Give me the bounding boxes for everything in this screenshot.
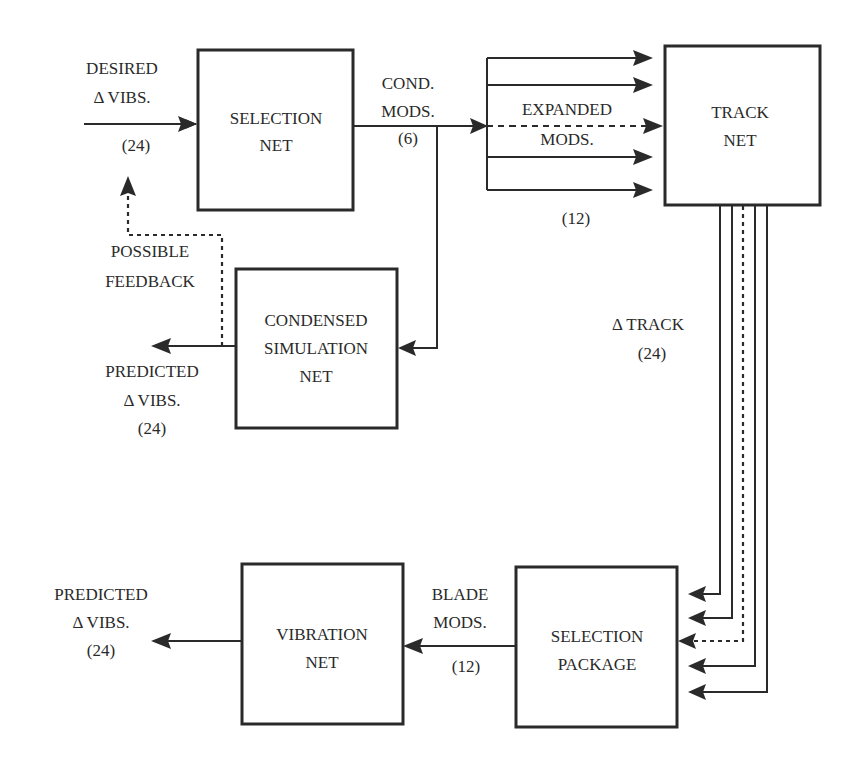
blade-mods-count: (12)	[452, 657, 480, 676]
vibration-net-label-2: NET	[305, 653, 339, 672]
condensed-label-1: CONDENSED	[265, 311, 368, 330]
predicted-top-label-1: PREDICTED	[105, 362, 199, 381]
expanded-mods-fan: EXPANDED MODS. (12)	[487, 50, 663, 228]
selection-package-label-2: PACKAGE	[558, 655, 637, 674]
predicted-vibs-bottom-output: PREDICTED Δ VIBS. (24)	[54, 585, 242, 660]
delta-track-label: Δ TRACK	[612, 315, 685, 334]
predicted-bottom-count: (24)	[87, 641, 115, 660]
desired-label-2: Δ VIBS.	[93, 88, 150, 107]
cond-mods-count: (6)	[398, 129, 418, 148]
feedback-label-2: FEEDBACK	[105, 272, 195, 291]
cond-mods-label-1: COND.	[382, 74, 434, 93]
delta-track-count: (24)	[638, 344, 666, 363]
desired-label-1: DESIRED	[86, 59, 158, 78]
condensed-label-2: SIMULATION	[264, 339, 368, 358]
cond-mods-label-2: MODS.	[381, 102, 434, 121]
selection-net-label-1: SELECTION	[230, 109, 323, 128]
desired-vibs-input: DESIRED Δ VIBS. (24)	[84, 59, 197, 155]
vibration-net-label-1: VIBRATION	[276, 625, 368, 644]
blade-mods-connection: BLADE MODS. (12)	[403, 585, 516, 676]
predicted-vibs-top-output: POSSIBLE FEEDBACK PREDICTED Δ VIBS. (24)	[105, 176, 236, 438]
selection-net-box: SELECTION NET	[198, 50, 353, 210]
blade-mods-label-2: MODS.	[433, 613, 486, 632]
blade-mods-label-1: BLADE	[432, 585, 489, 604]
expanded-mods-count: (12)	[562, 209, 590, 228]
track-net-label-2: NET	[723, 131, 757, 150]
flow-diagram: DESIRED Δ VIBS. (24) SELECTION NET COND.…	[0, 0, 857, 767]
expanded-mods-label-2: MODS.	[540, 130, 593, 149]
selection-package-label-1: SELECTION	[551, 627, 644, 646]
expanded-mods-label-1: EXPANDED	[522, 100, 612, 119]
predicted-bottom-label-1: PREDICTED	[54, 585, 148, 604]
feedback-label-1: POSSIBLE	[111, 242, 189, 261]
predicted-top-count: (24)	[138, 419, 166, 438]
selection-package-box: SELECTION PACKAGE	[516, 567, 677, 727]
condensed-simulation-box: CONDENSED SIMULATION NET	[236, 269, 397, 428]
vibration-net-box: VIBRATION NET	[242, 564, 403, 724]
track-net-box: TRACK NET	[665, 46, 820, 205]
desired-count: (24)	[122, 136, 150, 155]
condensed-label-3: NET	[299, 367, 333, 386]
predicted-top-label-2: Δ VIBS.	[123, 391, 180, 410]
selection-net-label-2: NET	[259, 136, 293, 155]
track-net-label-1: TRACK	[711, 103, 769, 122]
predicted-bottom-label-2: Δ VIBS.	[72, 613, 129, 632]
